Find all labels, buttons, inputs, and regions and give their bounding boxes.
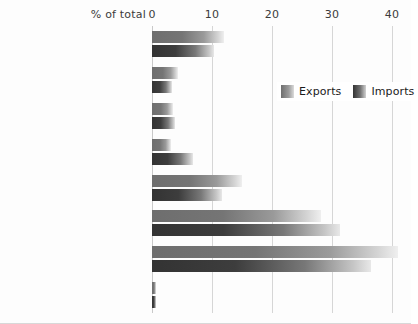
bar-exports [152,139,171,151]
chart-legend: Exports Imports [277,82,418,101]
chart-row: Chemicals [152,173,392,206]
x-tick-label-30: 30 [325,8,339,21]
x-tick-label-0: 0 [148,8,155,21]
plot-area: 010203040Food/live animalsAlcohol/tobacc… [152,26,392,313]
bar-imports [152,260,371,272]
bar-exports [152,210,321,222]
x-axis-title: % of total [91,8,146,21]
x-tick-label-10: 10 [205,8,219,21]
legend-label-exports: Exports [299,85,341,98]
bar-imports [152,45,214,57]
legend-swatch-imports-icon [353,85,366,98]
bar-imports [152,224,340,236]
chart-row: Raw materials (ores etc.) [152,101,392,134]
x-tick-label-40: 40 [385,8,399,21]
bar-exports [152,31,224,43]
chart-row: Manufactured goods [152,208,392,241]
bar-imports [152,117,175,129]
bar-exports [152,246,398,258]
bar-imports [152,296,156,308]
gridline-40 [392,26,393,313]
bar-exports [152,67,178,79]
x-tick-label-20: 20 [265,8,279,21]
legend-swatch-exports-icon [281,85,294,98]
bar-imports [152,81,172,93]
chart-row: Other goods and services [152,280,392,313]
bar-exports [152,282,156,294]
legend-item-exports[interactable]: Exports [281,85,341,98]
chart-row: Food/live animals [152,29,392,62]
chart-row: Machinery/transport equipment [152,244,392,277]
bar-imports [152,189,222,201]
chart-row: Fuels/energy [152,137,392,170]
bar-exports [152,175,242,187]
legend-label-imports: Imports [371,85,414,98]
bar-exports [152,103,173,115]
bar-imports [152,153,193,165]
legend-item-imports[interactable]: Imports [353,85,414,98]
